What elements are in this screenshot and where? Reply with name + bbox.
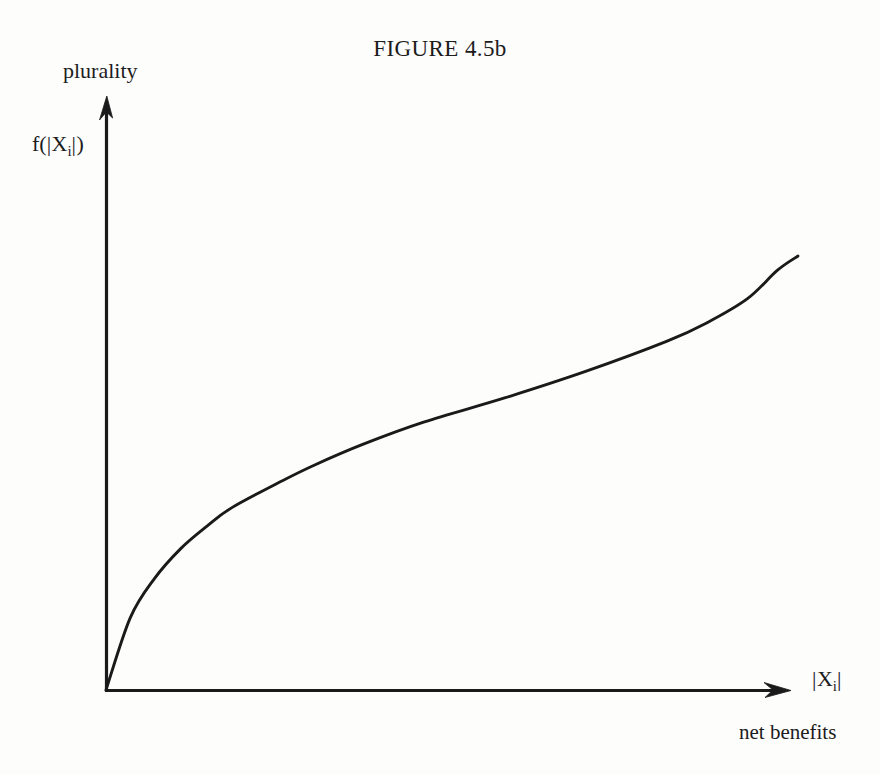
x-axis-symbol-label: |Xi| xyxy=(812,668,842,694)
fx-prefix: f( xyxy=(32,131,47,156)
y-axis-function-label: f(|Xi|) xyxy=(32,133,84,159)
x-axis-description-label: net benefits xyxy=(739,722,836,743)
plot-area xyxy=(0,0,880,775)
y-axis-top-label: plurality xyxy=(63,60,138,82)
x-variable: X xyxy=(817,666,833,691)
fx-variable: X xyxy=(52,131,68,156)
function-curve xyxy=(106,256,798,690)
figure-container: FIGURE 4.5b plurality f(|Xi|) |Xi| net b… xyxy=(0,0,880,775)
x-bar-close: | xyxy=(837,666,842,691)
fx-suffix: ) xyxy=(77,131,84,156)
